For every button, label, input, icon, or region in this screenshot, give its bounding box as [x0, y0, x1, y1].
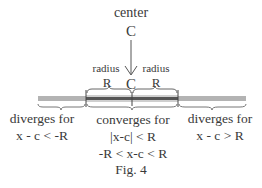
center-label: center [106, 6, 156, 20]
radius-right-label: radius [136, 63, 176, 74]
center-symbol: C [121, 24, 141, 39]
radius-of-convergence-diagram: center C radius R C radius R diverges fo… [0, 0, 262, 188]
mid-region-line-1: converges for [87, 111, 179, 128]
center-point-on-line: C [121, 77, 141, 92]
figure-caption: Fig. 4 [106, 163, 156, 177]
radius-left-symbol: R [97, 76, 117, 89]
number-line [38, 95, 246, 102]
right-divergence-region: diverges for x - c > R [182, 110, 258, 144]
mid-region-line-2: |x-c| < R [87, 128, 179, 145]
left-region-line-1: diverges for [6, 110, 78, 127]
convergence-region: converges for |x-c| < R -R < x-c < R [87, 111, 179, 162]
mid-region-line-3: -R < x-c < R [87, 145, 179, 162]
left-region-line-2: x - c < -R [6, 127, 78, 144]
left-divergence-region: diverges for x - c < -R [6, 110, 78, 144]
radius-left-label: radius [86, 63, 126, 74]
right-region-line-1: diverges for [182, 110, 258, 127]
radius-right-symbol: R [146, 76, 166, 89]
right-region-line-2: x - c > R [182, 127, 258, 144]
